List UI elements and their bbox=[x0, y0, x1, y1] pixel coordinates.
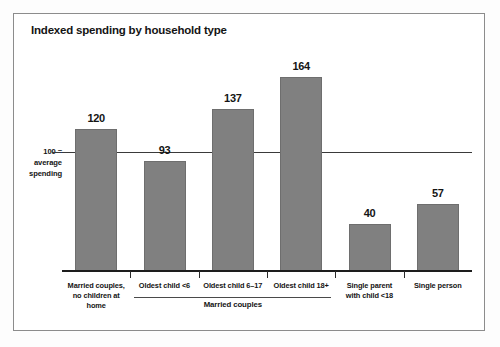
category-label: Oldest child 6–17 bbox=[201, 281, 265, 291]
bar bbox=[144, 161, 186, 271]
group-bracket-label: Married couples bbox=[134, 300, 331, 309]
category-label-line: Married couples, bbox=[64, 281, 128, 291]
bar bbox=[280, 77, 322, 271]
axis-note-text-3: spending bbox=[28, 168, 62, 179]
category-label-line: Single parent bbox=[337, 281, 401, 291]
category-label: Married couples,no children at home bbox=[64, 281, 128, 311]
bar-value-label: 120 bbox=[66, 112, 126, 124]
category-label-line: with child <18 bbox=[337, 291, 401, 301]
plot-area bbox=[62, 40, 472, 271]
category-label: Oldest child <6 bbox=[132, 281, 196, 291]
category-label-line: no children at home bbox=[64, 291, 128, 311]
page-title: Indexed spending by household type bbox=[31, 24, 227, 36]
group-bracket-rule bbox=[134, 297, 331, 298]
axis-tick bbox=[335, 271, 336, 278]
category-label-line: Oldest child <6 bbox=[132, 281, 196, 291]
bar-value-label: 164 bbox=[271, 60, 331, 72]
axis-tick bbox=[404, 271, 405, 278]
axis-tick bbox=[199, 271, 200, 278]
category-label-line: Oldest child 6–17 bbox=[201, 281, 265, 291]
axis-reference-note: 100 = average spending 100 = average spe… bbox=[28, 146, 62, 179]
category-label-line: Oldest child 18+ bbox=[269, 281, 333, 291]
bar-value-label: 57 bbox=[408, 187, 468, 199]
category-label: Oldest child 18+ bbox=[269, 281, 333, 291]
reference-line-dash bbox=[52, 152, 61, 153]
bar bbox=[75, 129, 117, 271]
bar-value-label: 40 bbox=[340, 207, 400, 219]
axis-tick bbox=[130, 271, 131, 278]
category-label-line: Single person bbox=[406, 281, 470, 291]
category-label: Single person bbox=[406, 281, 470, 291]
chart-figure: Indexed spending by household type 100 =… bbox=[0, 0, 500, 347]
bar bbox=[349, 224, 391, 271]
bar bbox=[212, 109, 254, 271]
bar-value-label: 137 bbox=[203, 92, 263, 104]
bar-value-label: 93 bbox=[135, 144, 195, 156]
axis-note-text-2: average bbox=[28, 157, 62, 168]
axis-tick bbox=[267, 271, 268, 278]
category-label: Single parentwith child <18 bbox=[337, 281, 401, 301]
bar bbox=[417, 204, 459, 271]
